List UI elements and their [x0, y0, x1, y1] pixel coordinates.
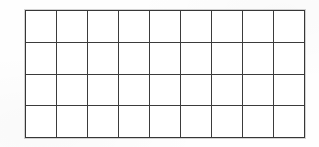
grid-cell[interactable] [26, 11, 57, 43]
grid-cell[interactable] [150, 11, 181, 43]
grid-cell[interactable] [274, 42, 305, 74]
grid-cell[interactable] [212, 11, 243, 43]
grid-cell[interactable] [57, 74, 88, 106]
grid-cell[interactable] [88, 11, 119, 43]
grid-cell[interactable] [243, 106, 274, 138]
grid-cell[interactable] [150, 74, 181, 106]
grid-cell[interactable] [274, 106, 305, 138]
grid-table-body [26, 11, 305, 138]
grid-table-container [25, 10, 305, 138]
grid-table [25, 10, 305, 138]
grid-cell[interactable] [88, 106, 119, 138]
grid-cell[interactable] [88, 42, 119, 74]
grid-cell[interactable] [212, 106, 243, 138]
grid-cell[interactable] [243, 42, 274, 74]
grid-cell[interactable] [57, 106, 88, 138]
grid-cell[interactable] [181, 106, 212, 138]
grid-cell[interactable] [181, 42, 212, 74]
grid-cell[interactable] [119, 42, 150, 74]
grid-cell[interactable] [26, 106, 57, 138]
grid-cell[interactable] [212, 42, 243, 74]
grid-cell[interactable] [88, 74, 119, 106]
grid-cell[interactable] [119, 11, 150, 43]
grid-cell[interactable] [57, 42, 88, 74]
grid-cell[interactable] [26, 42, 57, 74]
grid-cell[interactable] [212, 74, 243, 106]
page-canvas [0, 0, 319, 147]
table-row [26, 42, 305, 74]
table-row [26, 11, 305, 43]
grid-cell[interactable] [274, 11, 305, 43]
grid-cell[interactable] [119, 106, 150, 138]
table-row [26, 106, 305, 138]
grid-cell[interactable] [181, 74, 212, 106]
grid-cell[interactable] [243, 74, 274, 106]
grid-cell[interactable] [243, 11, 274, 43]
grid-cell[interactable] [119, 74, 150, 106]
grid-cell[interactable] [274, 74, 305, 106]
grid-cell[interactable] [26, 74, 57, 106]
grid-cell[interactable] [57, 11, 88, 43]
grid-cell[interactable] [150, 42, 181, 74]
grid-cell[interactable] [150, 106, 181, 138]
grid-cell[interactable] [181, 11, 212, 43]
table-row [26, 74, 305, 106]
